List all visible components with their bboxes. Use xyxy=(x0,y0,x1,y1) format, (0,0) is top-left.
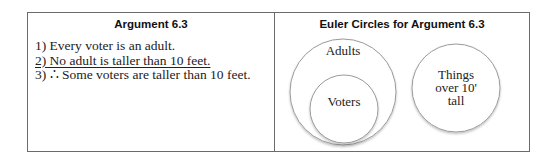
adults-label: Adults xyxy=(326,43,361,58)
things-label-line3: tall xyxy=(448,93,465,108)
euler-diagram: Adults Voters Things over 10' tall xyxy=(0,0,557,157)
voters-label: Voters xyxy=(328,94,361,109)
voters-circle xyxy=(310,75,378,143)
